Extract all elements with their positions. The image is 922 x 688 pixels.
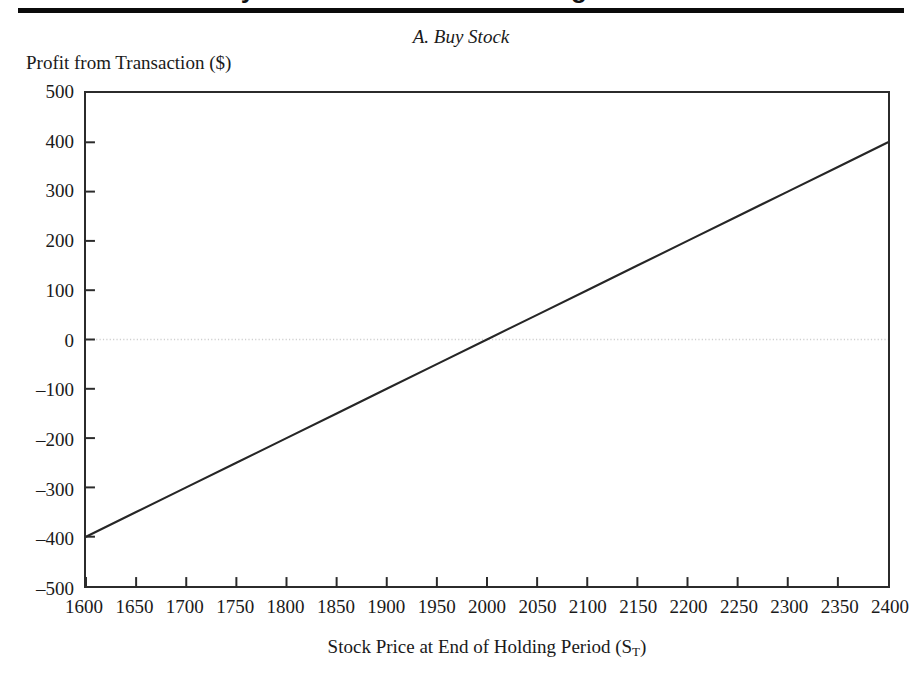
y-axis-tick-label: –300 bbox=[6, 479, 74, 498]
y-axis-tick-label: –500 bbox=[6, 579, 74, 598]
y-axis-tick-label: 300 bbox=[6, 181, 74, 200]
plot-canvas bbox=[86, 93, 888, 586]
x-axis-tick-label: 1900 bbox=[367, 596, 405, 618]
x-axis-caption-main: Stock Price at End of Holding Period (S bbox=[328, 636, 633, 657]
data-series-line-0 bbox=[86, 142, 888, 536]
clipped-section-heading: Payoffs and Profits from Long Positions bbox=[0, 0, 922, 8]
x-axis-tick-label: 1650 bbox=[115, 596, 153, 618]
x-axis-tick-label-group: 1600165017001750180018501900195020002050… bbox=[84, 596, 890, 622]
x-axis-tick-label: 2050 bbox=[518, 596, 556, 618]
y-axis-tick-label-group: 5004003002001000–100–200–300–400–500 bbox=[0, 91, 74, 588]
y-axis-caption: Profit from Transaction ($) bbox=[26, 52, 231, 74]
x-axis-tick-label: 1800 bbox=[267, 596, 305, 618]
y-axis-tick-label: 100 bbox=[6, 280, 74, 299]
x-axis-tick-label: 2250 bbox=[720, 596, 758, 618]
x-axis-caption-subscript: T bbox=[632, 644, 640, 659]
y-axis-tick-label: 500 bbox=[6, 82, 74, 101]
panel-title: A. Buy Stock bbox=[0, 26, 922, 48]
y-axis-tick-label: –400 bbox=[6, 529, 74, 548]
y-axis-tick-label: –200 bbox=[6, 429, 74, 448]
x-axis-tick-label: 2200 bbox=[670, 596, 708, 618]
x-axis-tick-label: 2400 bbox=[871, 596, 909, 618]
plot-area bbox=[84, 91, 890, 588]
y-axis-tick-label: 200 bbox=[6, 231, 74, 250]
x-axis-tick-label: 2000 bbox=[468, 596, 506, 618]
x-axis-tick-label: 2350 bbox=[821, 596, 859, 618]
y-axis-tick-label: 400 bbox=[6, 131, 74, 150]
x-axis-tick-label: 2100 bbox=[569, 596, 607, 618]
x-axis-tick-label: 1850 bbox=[317, 596, 355, 618]
x-axis-caption-close: ) bbox=[640, 636, 646, 657]
y-axis-tick-label: –100 bbox=[6, 380, 74, 399]
y-axis-tick-label: 0 bbox=[6, 330, 74, 349]
x-axis-tick-label: 1950 bbox=[418, 596, 456, 618]
x-axis-tick-label: 1750 bbox=[216, 596, 254, 618]
x-axis-tick-label: 2150 bbox=[619, 596, 657, 618]
top-rule-divider bbox=[18, 8, 904, 13]
x-axis-tick-label: 1600 bbox=[65, 596, 103, 618]
x-axis-tick-label: 2300 bbox=[770, 596, 808, 618]
x-axis-caption: Stock Price at End of Holding Period (ST… bbox=[84, 636, 890, 660]
x-axis-tick-label: 1700 bbox=[166, 596, 204, 618]
